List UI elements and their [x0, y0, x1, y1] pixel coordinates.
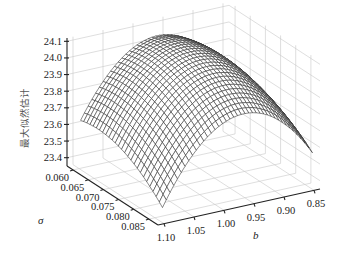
- b-tick-label: 0.90: [277, 205, 295, 216]
- b-tick-label: 0.85: [307, 198, 325, 209]
- z-tick-label: 24.1: [44, 36, 62, 47]
- z-tick-label: 23.6: [44, 119, 62, 130]
- surface-mesh: [81, 35, 313, 208]
- z-axis-label: 最大似然估计: [19, 88, 30, 148]
- y-axis-label: σ: [38, 214, 44, 226]
- b-tick-label: 0.95: [247, 212, 265, 223]
- z-tick-label: 23.9: [44, 69, 62, 80]
- z-tick-label: 23.7: [44, 102, 62, 113]
- x-axis-label: b: [253, 229, 259, 241]
- sigma-tick-label: 0.085: [121, 221, 145, 232]
- z-tick-label: 23.4: [44, 152, 63, 163]
- b-tick-label: 1.05: [187, 225, 205, 236]
- surface-plot: 23.423.523.623.723.823.924.024.10.0600.0…: [0, 0, 342, 259]
- z-tick-label: 23.5: [44, 136, 62, 147]
- z-tick-label: 23.8: [44, 86, 62, 97]
- b-tick-label: 1.00: [217, 218, 235, 229]
- b-tick-label: 1.10: [157, 232, 175, 243]
- z-tick-label: 24.0: [44, 52, 62, 63]
